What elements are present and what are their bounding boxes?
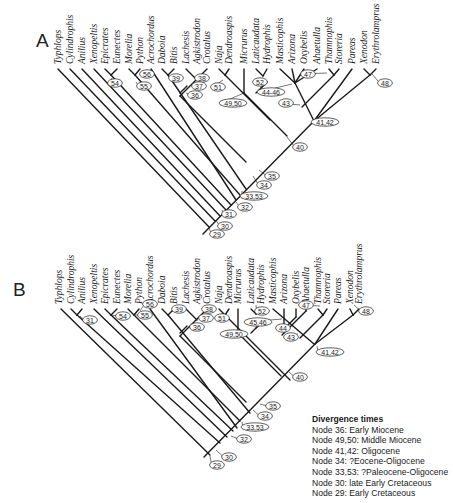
node-number: 31 bbox=[225, 211, 233, 218]
node-number: 44-46 bbox=[262, 89, 280, 96]
branch bbox=[180, 309, 207, 336]
node-label: 39 bbox=[169, 74, 184, 82]
legend-item: Node 41,42: Oligocene bbox=[312, 446, 448, 457]
node-number: 49,50 bbox=[224, 100, 242, 107]
legend-item: Node 34: ?Eocene-Oligocene bbox=[312, 456, 448, 467]
legend-item: Node 29: Early Cretaceous bbox=[312, 488, 448, 499]
node-label: 48 bbox=[372, 74, 392, 87]
taxon-label: Anilius bbox=[77, 37, 87, 65]
branch bbox=[329, 69, 334, 75]
taxon-label: Oxybelis bbox=[291, 270, 301, 304]
node-number: 48 bbox=[381, 80, 389, 87]
taxon-label: Epicrates bbox=[100, 267, 110, 305]
node-label: 35 bbox=[259, 170, 279, 180]
branch bbox=[263, 69, 267, 76]
taxon-label: Typhlops bbox=[53, 30, 63, 64]
branch bbox=[71, 309, 77, 315]
node-number: 38 bbox=[205, 306, 213, 313]
node-label: 31 bbox=[222, 210, 237, 218]
node-number: 47 bbox=[302, 302, 310, 309]
node-label: 52 bbox=[255, 305, 270, 315]
taxon-label: Eunectes bbox=[112, 29, 122, 65]
taxon-label: Xenopeltis bbox=[89, 264, 99, 305]
node-label: 30 bbox=[216, 220, 232, 230]
panel-label-b: B bbox=[13, 279, 26, 301]
branch bbox=[334, 69, 339, 75]
node-label: 56 bbox=[140, 70, 155, 78]
branch bbox=[135, 75, 240, 195]
branch bbox=[111, 315, 233, 431]
branch bbox=[256, 69, 263, 76]
branch bbox=[302, 75, 334, 107]
branch bbox=[105, 309, 111, 315]
taxon-label: Daboia bbox=[157, 275, 167, 305]
node-number: 56 bbox=[146, 301, 154, 308]
node-number: 29 bbox=[213, 231, 221, 238]
branch bbox=[58, 69, 209, 227]
branch bbox=[111, 69, 117, 75]
taxon-label: Xenodon bbox=[359, 30, 369, 65]
taxon-label: Micrurus bbox=[239, 28, 249, 65]
branch bbox=[168, 75, 246, 189]
node-label: 38 bbox=[202, 305, 217, 313]
branch bbox=[364, 69, 370, 75]
node-label: 41,42 bbox=[311, 118, 339, 126]
taxon-label: Epicrates bbox=[100, 27, 110, 65]
taxon-label: Lachesis bbox=[181, 270, 191, 305]
taxon-label: Typhlops bbox=[54, 270, 64, 304]
legend-item: Node 49,50: Middle Miocene bbox=[312, 435, 448, 446]
taxon-label: Arizona bbox=[287, 34, 297, 65]
node-number: 38 bbox=[198, 75, 206, 82]
taxon-label: Daboia bbox=[157, 35, 167, 65]
branch bbox=[94, 309, 227, 437]
taxon-label: Laticaudata bbox=[251, 18, 261, 65]
node-number: 41,42 bbox=[316, 119, 334, 126]
node-label: 51 bbox=[211, 80, 226, 91]
node-number: 44 bbox=[279, 325, 287, 332]
taxon-label: Arizona bbox=[279, 274, 289, 305]
node-label: 49,50 bbox=[219, 93, 247, 107]
node-label: 43 bbox=[284, 333, 299, 341]
taxon-label: Python bbox=[134, 277, 144, 305]
node-label: 44 bbox=[276, 324, 291, 332]
node-number: 35 bbox=[268, 173, 276, 180]
taxon-label: Cylindrophis bbox=[65, 14, 75, 64]
node-number: 34 bbox=[260, 182, 268, 189]
node-label: 49,50 bbox=[220, 330, 248, 338]
taxon-label: Bitis bbox=[169, 286, 179, 304]
node-number: 56 bbox=[143, 71, 151, 78]
taxon-label: Naja bbox=[214, 45, 224, 65]
node-number: 39 bbox=[175, 306, 183, 313]
branch bbox=[318, 309, 323, 315]
branch bbox=[94, 69, 226, 210]
node-number: 51 bbox=[218, 315, 226, 322]
node-number: 41,42 bbox=[321, 349, 339, 356]
taxon-label: Erythrolamprus bbox=[371, 3, 381, 65]
node-label: 36 bbox=[186, 91, 202, 99]
node-number: 32 bbox=[241, 204, 249, 211]
node-label: 36 bbox=[190, 323, 205, 331]
branch bbox=[105, 69, 111, 75]
branch bbox=[219, 69, 225, 75]
node-label: 35 bbox=[260, 402, 280, 410]
node-number: 54 bbox=[111, 80, 119, 87]
taxon-label: Storeria bbox=[322, 273, 332, 304]
phylogeny-figure: TyphlopsCylindrophisAniliusXenopeltisEpi… bbox=[0, 0, 453, 503]
node-label: 32 bbox=[236, 202, 252, 211]
taxon-label: Anilius bbox=[77, 277, 87, 305]
node-label: 48 bbox=[354, 305, 373, 315]
branch bbox=[203, 121, 314, 234]
node-label: 30 bbox=[216, 450, 236, 461]
branch bbox=[300, 315, 323, 338]
branch bbox=[77, 309, 82, 315]
taxon-label: Masticophis bbox=[268, 257, 278, 305]
taxon-label: Masticophis bbox=[275, 17, 285, 65]
branch bbox=[350, 309, 353, 315]
node-label: 32 bbox=[231, 435, 251, 443]
node-number: 30 bbox=[221, 223, 229, 230]
node-label: 31 bbox=[80, 316, 97, 324]
taxon-label: Morelia bbox=[124, 33, 134, 65]
node-number: 34 bbox=[261, 413, 269, 420]
node-number: 31 bbox=[86, 317, 94, 324]
node-label: 45,46 bbox=[244, 318, 282, 326]
